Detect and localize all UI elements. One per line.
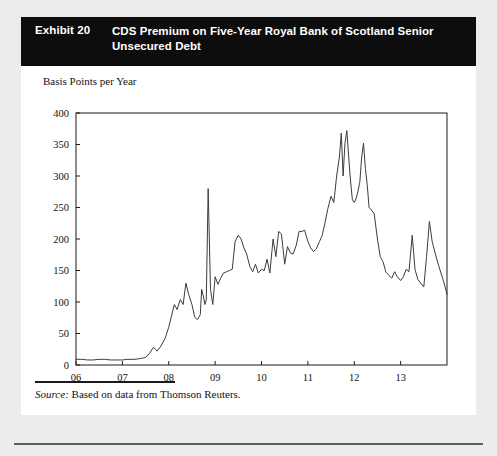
page-bottom-rule [14,443,483,445]
x-axis-tick-group: 0607080910111213 [71,361,406,383]
y-axis-tick-label: 150 [53,265,69,276]
y-axis-tick-label: 50 [59,328,70,339]
exhibit-page: Exhibit 20 CDS Premium on Five-Year Roya… [0,0,497,456]
y-axis-tick-label: 200 [53,234,69,245]
y-axis-tick-label: 350 [53,139,69,150]
y-axis-tick-label: 400 [53,108,69,119]
y-axis-tick-label: 300 [53,171,69,182]
source-body-text: Based on data from Thomson Reuters. [69,388,241,400]
source-note: Source: Based on data from Thomson Reute… [35,381,455,400]
exhibit-number-label: Exhibit 20 [35,24,90,36]
exhibit-card: Exhibit 20 CDS Premium on Five-Year Roya… [21,17,476,415]
source-note-text: Source: Based on data from Thomson Reute… [35,388,455,400]
cds-premium-line-chart: 050100150200250300350400 060708091011121… [21,66,476,386]
source-divider [35,381,175,383]
exhibit-title-bar: Exhibit 20 CDS Premium on Five-Year Roya… [21,17,476,66]
y-axis-tick-label: 100 [53,297,69,308]
plot-frame [76,113,447,365]
source-label: Source: [35,388,69,400]
chart-plot-area: 050100150200250300350400 060708091011121… [21,66,476,386]
y-axis-tick-label: 250 [53,202,69,213]
exhibit-title-text: CDS Premium on Five-Year Royal Bank of S… [112,24,464,54]
cds-premium-series-line [76,131,447,360]
y-axis-tick-label: 0 [64,360,69,371]
